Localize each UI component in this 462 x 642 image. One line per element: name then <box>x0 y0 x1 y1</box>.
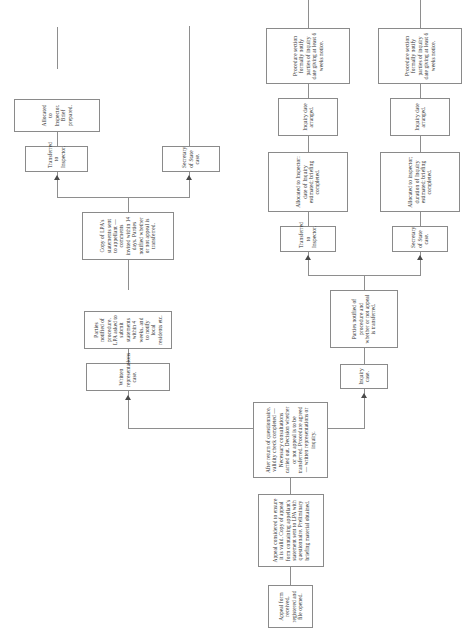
node-secretary-state-inq-label: Secretary of State case. <box>410 230 429 248</box>
arrowhead-to-transferred-inq <box>305 255 311 260</box>
node-appeal-received[interactable]: Appeal form received, registered and fil… <box>268 585 313 628</box>
node-procedure-section-top[interactable]: Procedure section formally notify partie… <box>266 28 350 84</box>
connector-allocated-brief-out <box>57 27 58 69</box>
node-procedure-section-top-label: Procedure section formally notify partie… <box>292 32 324 80</box>
node-inquiry-date-arranged-top-label: Inquiry date arranged. <box>302 102 315 132</box>
connector-parties-inq-split-h <box>364 275 365 290</box>
node-allocated-inspector-brief[interactable]: Allocated to Inspector. Brief prepared. <box>14 99 100 132</box>
connector-copy-split-h <box>128 197 129 212</box>
connector-allocated-to-date-top <box>308 136 309 152</box>
node-secretary-state-inq[interactable]: Secretary of State case. <box>392 226 448 252</box>
arrowhead-to-written-reps <box>125 395 131 400</box>
node-appeal-considered-label: Appeal considered to ensure it is valid.… <box>272 498 310 563</box>
node-allocated-inspector-duration[interactable]: Allocated to inspector; duration of Inqu… <box>380 152 460 212</box>
node-inquiry-date-arranged-top[interactable]: Inquiry date arranged. <box>278 98 338 136</box>
node-copy-lpa-statements-label: Copy of LPA's statements sent to appella… <box>99 216 156 256</box>
connector-considered-to-questionnaire <box>290 478 291 494</box>
node-inquiry-case-label: Inquiry case. <box>358 368 371 385</box>
node-appeal-considered[interactable]: Appeal considered to ensure it is valid.… <box>258 494 324 567</box>
connector-transferred-to-allocated-brief <box>57 132 58 146</box>
node-transferred-inspector-inq-label: Transferred to Inspector. <box>298 230 317 248</box>
connector-procedure-bottom-out <box>420 0 421 28</box>
node-inquiry-case[interactable]: Inquiry case. <box>340 364 388 389</box>
node-parties-notified-wr[interactable]: Parties notified of procedure. LPA asked… <box>84 311 172 349</box>
connector-procedure-top-out <box>308 0 309 28</box>
node-allocated-inspector-date[interactable]: Allocated to Inspector: date of Inquiry … <box>268 152 348 212</box>
node-questionnaire-returned[interactable]: After return of questionnaire, validity … <box>253 402 328 478</box>
arrowhead-to-transferred-wr <box>54 175 60 180</box>
node-allocated-inspector-brief-label: Allocated to Inspector. Brief prepared. <box>41 103 73 128</box>
arrowhead-to-secretary-wr <box>186 175 192 180</box>
node-inquiry-date-arranged-bottom-label: Inquiry date arranged. <box>414 102 427 132</box>
node-written-reps-case[interactable]: Written representations case. <box>86 363 170 391</box>
connector-secretary-wr-out <box>189 26 190 146</box>
connector-transferred-inq-to-allocated <box>308 212 309 226</box>
connector-parties-to-copy <box>128 260 129 290</box>
node-transferred-inspector-inq[interactable]: Transferred to Inspector. <box>280 226 336 252</box>
node-secretary-state-wr[interactable]: Secretary of State case. <box>162 146 220 172</box>
node-parties-notified-wr-label: Parties notified of procedure. LPA asked… <box>93 315 163 345</box>
node-inquiry-date-arranged-bottom[interactable]: Inquiry date arranged. <box>390 98 450 136</box>
node-procedure-section-bottom-label: Procedure section formally notify partie… <box>404 32 436 80</box>
connector-inquiry-to-parties <box>364 348 365 364</box>
node-questionnaire-returned-label: After return of questionnaire, validity … <box>265 406 316 474</box>
connector-copy-split-v <box>57 197 189 198</box>
connector-date-to-procedure-bottom <box>420 84 421 98</box>
node-procedure-section-bottom[interactable]: Procedure section formally notify partie… <box>378 28 462 84</box>
connector-date-to-procedure-top <box>308 84 309 98</box>
connector-allocated-to-date-bottom <box>420 136 421 152</box>
node-transferred-inspector-wr-label: Transferred to Inspector. <box>47 150 66 168</box>
arrowhead-to-secretary-inq <box>417 255 423 260</box>
node-secretary-state-wr-label: Secretary of State case. <box>181 150 200 168</box>
node-transferred-inspector-wr[interactable]: Transferred to Inspector. <box>25 146 88 172</box>
node-parties-notified-inq-label: Parties notified of procedure and whethe… <box>351 294 377 344</box>
connector-appeal-received-to-considered <box>290 567 291 585</box>
node-parties-notified-inq[interactable]: Parties notified of procedure and whethe… <box>330 290 398 348</box>
node-allocated-inspector-duration-label: Allocated to inspector; duration of Inqu… <box>407 156 433 208</box>
arrowhead-to-inquiry-case <box>361 393 367 398</box>
node-written-reps-case-label: Written representations case. <box>118 367 137 387</box>
connector-secretary-inq-to-allocated <box>420 212 421 226</box>
node-appeal-received-label: Appeal form received, registered and fil… <box>278 589 304 624</box>
node-allocated-inspector-date-label: Allocated to Inspector: date of Inquiry … <box>295 156 321 208</box>
node-copy-lpa-statements[interactable]: Copy of LPA's statements sent to appella… <box>82 212 174 260</box>
